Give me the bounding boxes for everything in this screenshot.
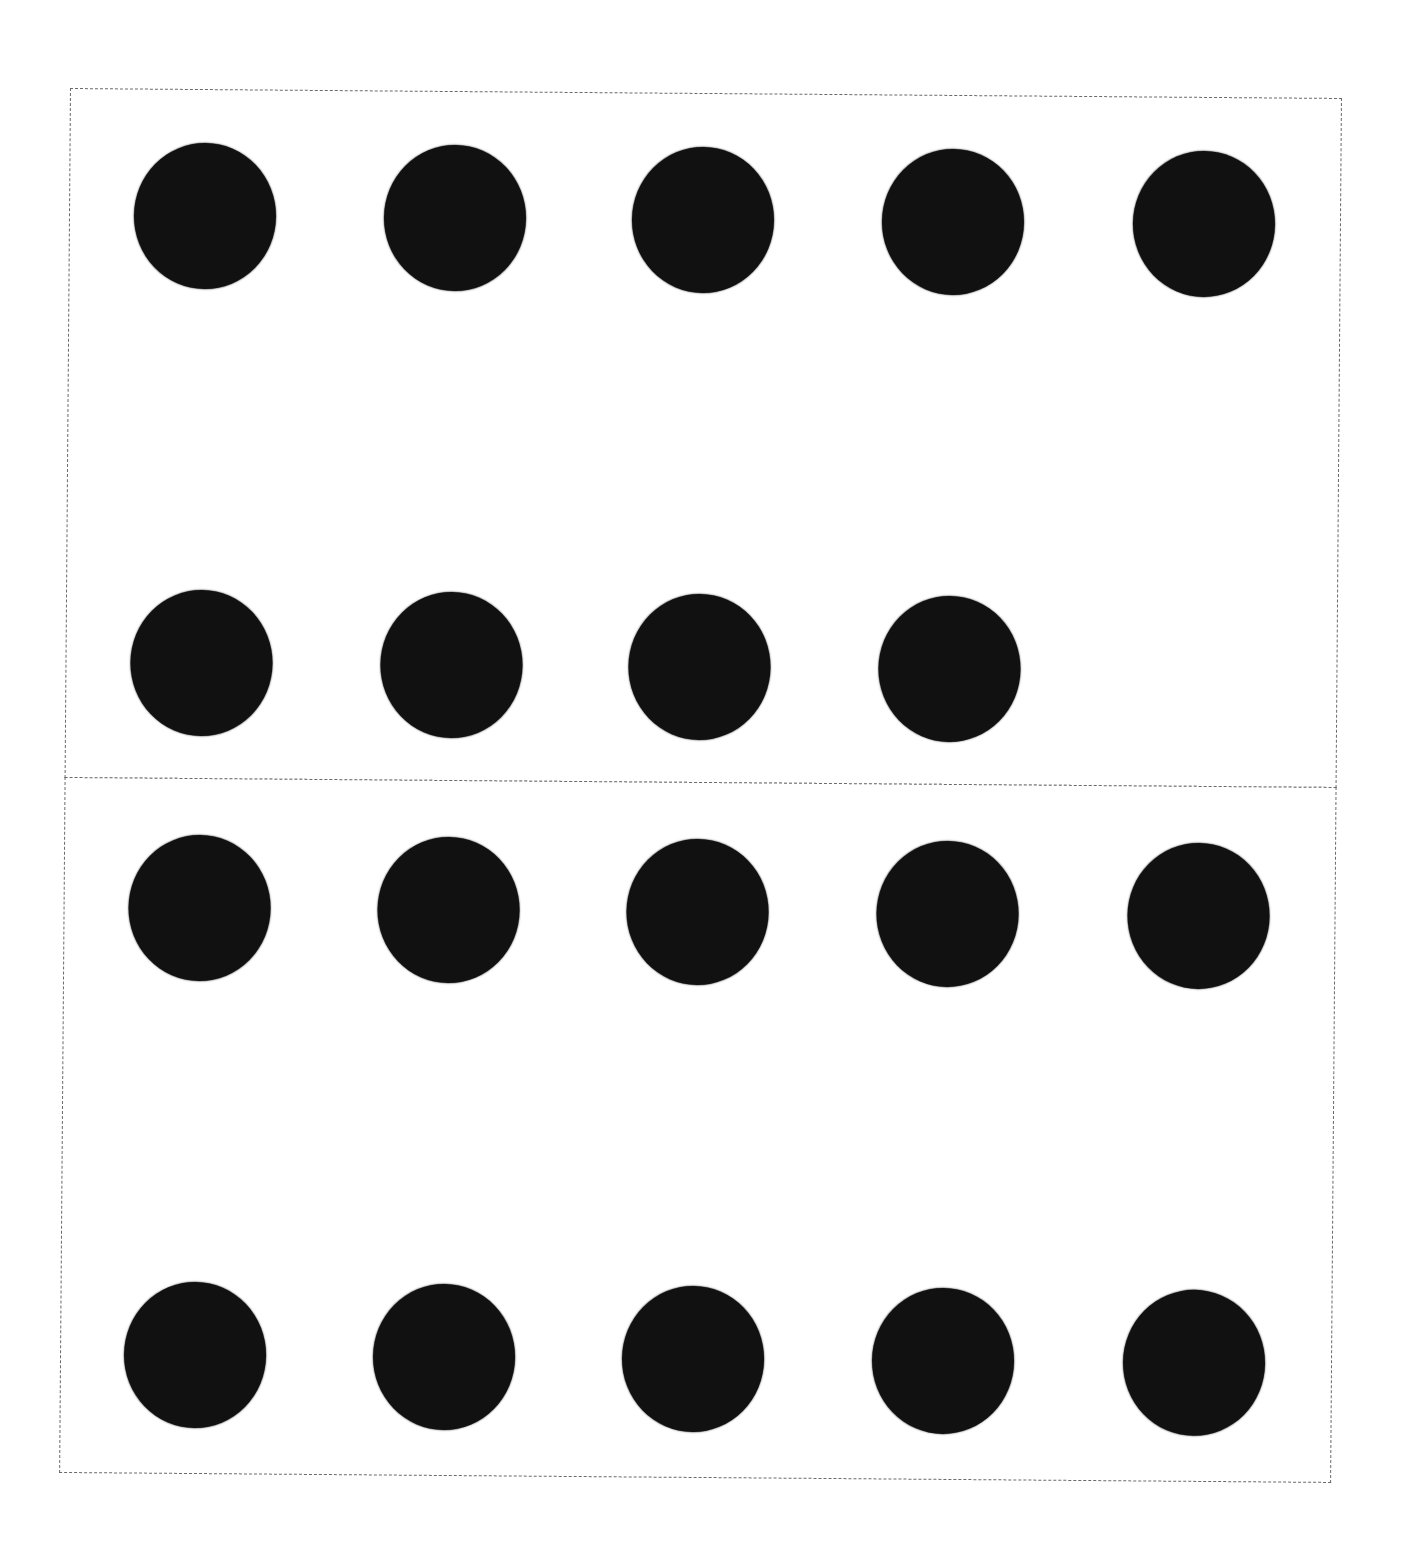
bottom-dot-panel (59, 776, 1336, 1482)
dot (372, 1283, 515, 1430)
dot (1132, 150, 1275, 297)
dot (130, 589, 273, 736)
dot-row-3 (64, 833, 1335, 989)
dot-row-1 (69, 142, 1340, 298)
dot (626, 838, 769, 985)
dot (621, 1285, 764, 1432)
dot (123, 1281, 266, 1428)
dot (881, 148, 1024, 295)
top-dot-panel (65, 88, 1342, 788)
dot (876, 840, 1019, 987)
empty-dot-slot (1129, 597, 1272, 744)
dot-row-4 (60, 1280, 1331, 1436)
dot (871, 1287, 1014, 1434)
dot (628, 593, 771, 740)
dot (377, 836, 520, 983)
dot (383, 144, 526, 291)
dot (631, 146, 774, 293)
dot (878, 595, 1021, 742)
dot (1122, 1289, 1265, 1436)
dot (133, 143, 276, 290)
worksheet-page (59, 88, 1344, 1482)
dot-row-2 (66, 589, 1337, 745)
dot (128, 834, 271, 981)
dot (380, 591, 523, 738)
dot (1127, 842, 1270, 989)
